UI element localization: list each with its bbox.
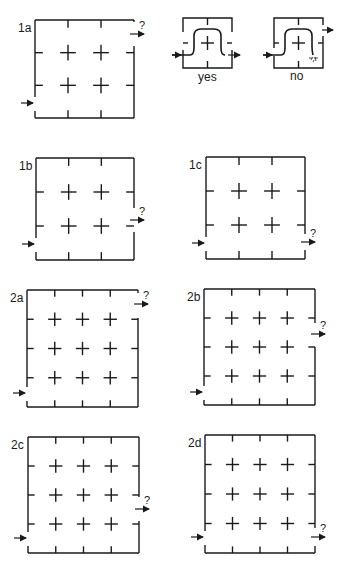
puzzle-2a: ?2a [10, 289, 149, 407]
puzzle-1c-label: 1c [189, 158, 202, 172]
puzzle-1b: ?1b [19, 158, 145, 260]
puzzle-2b-question-mark: ? [320, 319, 326, 331]
puzzle-1b-label: 1b [19, 159, 33, 173]
example-no-caption: no [290, 69, 304, 83]
puzzle-grids: ?1a?1b?1c?2a?2b?2c?2d [10, 19, 326, 553]
puzzle-1a: ?1a [18, 19, 145, 118]
puzzle-2d-walls [205, 435, 315, 553]
puzzle-2d-label: 2d [188, 436, 201, 450]
puzzle-1b-walls [36, 158, 134, 260]
puzzle-2a-label: 2a [10, 291, 24, 305]
puzzle-2d-question-mark: ? [320, 522, 326, 534]
puzzle-2c-walls [28, 437, 139, 553]
maze-puzzle-diagram: yes no ?1a?1b?1c?2a?2b?2c?2d [0, 0, 343, 566]
example-yes: yes [172, 18, 240, 84]
puzzle-1c-walls [206, 157, 305, 259]
puzzle-1c: ?1c [189, 157, 316, 259]
puzzle-2b-walls [204, 289, 315, 405]
puzzle-2c-question-mark: ? [144, 494, 150, 506]
puzzle-2d: ?2d [188, 435, 326, 553]
puzzle-1c-frame [206, 157, 305, 259]
example-no: no [263, 18, 333, 83]
example-no-path [263, 29, 313, 55]
puzzle-1a-question-mark: ? [139, 19, 145, 31]
puzzle-2b: ?2b [187, 289, 326, 405]
puzzle-1b-frame [36, 158, 134, 260]
puzzle-2a-question-mark: ? [143, 289, 149, 301]
puzzle-1a-frame [35, 20, 134, 118]
puzzle-2a-walls [27, 290, 138, 407]
puzzle-2b-label: 2b [187, 290, 201, 304]
example-yes-caption: yes [198, 70, 217, 84]
puzzle-2c-label: 2c [11, 438, 24, 452]
puzzle-1a-walls [35, 20, 134, 118]
puzzle-1b-question-mark: ? [139, 205, 145, 217]
crash-burst-icon [309, 57, 318, 62]
puzzle-1c-question-mark: ? [310, 227, 316, 239]
example-yes-grid [183, 18, 232, 68]
example-yes-path [172, 29, 225, 55]
puzzle-2c: ?2c [11, 437, 150, 553]
puzzle-1a-label: 1a [18, 21, 32, 35]
